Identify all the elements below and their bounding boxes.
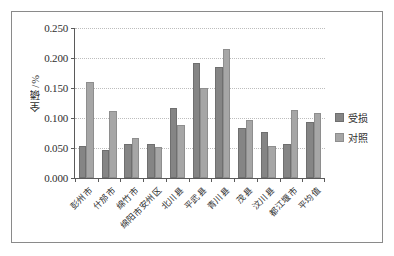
legend-label: 对照	[348, 130, 368, 145]
bar-group: 平均值	[302, 28, 325, 178]
bar-group: 都江堰市	[280, 28, 303, 178]
x-axis-category-label: 平均值	[295, 184, 323, 212]
bar-duizhao[interactable]	[86, 82, 94, 178]
legend-label: 受损	[348, 110, 368, 125]
bar-shoussun[interactable]	[283, 144, 291, 178]
bar-group: 茂县	[234, 28, 257, 178]
bar-group: 绵竹市	[120, 28, 143, 178]
bar-shoussun[interactable]	[193, 63, 201, 178]
bar-duizhao[interactable]	[314, 113, 322, 178]
bar-group: 北川县	[166, 28, 189, 178]
bar-group: 绵阳市安州区	[143, 28, 166, 178]
bar-shoussun[interactable]	[102, 150, 110, 178]
x-axis-tick-mark	[120, 178, 121, 182]
bar-duizhao[interactable]	[291, 110, 299, 178]
bar-group: 彭州市	[75, 28, 98, 178]
x-axis-tick-mark	[302, 178, 303, 182]
x-axis-category-label: 北川县	[158, 184, 186, 212]
bar-group: 汶川县	[257, 28, 280, 178]
bar-group: 青川县	[211, 28, 234, 178]
bar-shoussun[interactable]	[79, 146, 87, 178]
x-axis-tick-mark	[143, 178, 144, 182]
y-axis-tick-label: 0.050	[44, 142, 68, 154]
bar-shoussun[interactable]	[215, 67, 223, 178]
bar-shoussun[interactable]	[238, 128, 246, 178]
y-axis-tick-label: 0.250	[44, 22, 68, 34]
x-axis-tick-mark	[75, 178, 76, 182]
bar-duizhao[interactable]	[268, 146, 276, 178]
y-axis-tick-label: 0.000	[44, 172, 68, 184]
bar-duizhao[interactable]	[223, 49, 231, 178]
bar-group: 平武县	[189, 28, 212, 178]
x-axis-tick-mark	[211, 178, 212, 182]
x-axis-tick-mark	[324, 178, 325, 182]
legend-swatch-icon	[335, 113, 344, 122]
x-axis-tick-mark	[257, 178, 258, 182]
x-axis-category-label: 彭州市	[67, 184, 95, 212]
x-axis-category-label: 什邡市	[90, 184, 118, 212]
x-axis-tick-mark	[189, 178, 190, 182]
bar-shoussun[interactable]	[306, 122, 314, 178]
x-axis-tick-mark	[280, 178, 281, 182]
y-axis-tick-label: 0.200	[44, 52, 68, 64]
bar-shoussun[interactable]	[261, 132, 269, 178]
chart-legend: 受损对照	[335, 110, 368, 145]
bar-groups: 彭州市什邡市绵竹市绵阳市安州区北川县平武县青川县茂县汶川县都江堰市平均值	[75, 28, 325, 178]
y-axis-tick-label: 0.100	[44, 112, 68, 124]
chart-figure: 全磷/% 0.2500.2000.1500.1000.0500.000 彭州市什…	[11, 11, 383, 243]
bar-duizhao[interactable]	[200, 88, 208, 178]
x-axis-tick-mark	[234, 178, 235, 182]
bar-duizhao[interactable]	[132, 138, 140, 178]
bar-duizhao[interactable]	[109, 111, 117, 178]
x-axis-category-label: 青川县	[204, 184, 232, 212]
x-axis-category-label: 平武县	[181, 184, 209, 212]
plot-area: 0.2500.2000.1500.1000.0500.000 彭州市什邡市绵竹市…	[74, 28, 325, 179]
legend-item[interactable]: 对照	[335, 130, 368, 145]
legend-swatch-icon	[335, 133, 344, 142]
bar-shoussun[interactable]	[147, 144, 155, 178]
legend-item[interactable]: 受损	[335, 110, 368, 125]
bar-duizhao[interactable]	[177, 125, 185, 178]
bar-duizhao[interactable]	[155, 147, 163, 178]
bar-shoussun[interactable]	[170, 108, 178, 178]
y-axis-tick-label: 0.150	[44, 82, 68, 94]
x-axis-tick-mark	[166, 178, 167, 182]
bar-shoussun[interactable]	[124, 144, 132, 178]
y-axis-title: 全磷/%	[28, 74, 42, 112]
x-axis-tick-mark	[98, 178, 99, 182]
bar-group: 什邡市	[98, 28, 121, 178]
bar-duizhao[interactable]	[246, 120, 254, 178]
